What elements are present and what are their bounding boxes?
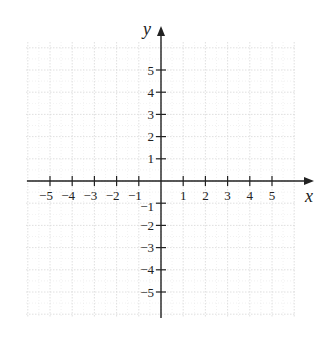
y-tick-label: −4 <box>140 262 154 277</box>
x-tick-label: 1 <box>180 188 187 203</box>
x-axis-arrow-icon <box>304 177 314 185</box>
x-tick-label: −3 <box>83 188 97 203</box>
y-axis-arrow-icon <box>157 26 165 36</box>
y-tick-label: 4 <box>148 85 155 100</box>
y-tick-label: 5 <box>148 63 155 78</box>
x-tick-label: −5 <box>39 188 53 203</box>
y-axis-label: y <box>141 19 151 39</box>
x-tick-label: −4 <box>61 188 75 203</box>
y-tick-label: −1 <box>140 199 154 214</box>
y-tick-label: 1 <box>148 151 155 166</box>
y-tick-label: −3 <box>140 240 154 255</box>
y-tick-label: 3 <box>148 107 155 122</box>
x-tick-label: 2 <box>202 188 209 203</box>
x-tick-label: 5 <box>269 188 276 203</box>
x-tick-label: 3 <box>224 188 231 203</box>
x-tick-label: −2 <box>106 188 120 203</box>
y-tick-label: −5 <box>140 285 154 300</box>
coordinate-plane: −5−4−3−2−112345−5−4−3−2−112345 x y <box>0 0 330 340</box>
y-tick-label: 2 <box>148 129 155 144</box>
y-tick-label: −2 <box>140 218 154 233</box>
x-axis-label: x <box>304 186 313 206</box>
x-tick-label: 4 <box>247 188 254 203</box>
